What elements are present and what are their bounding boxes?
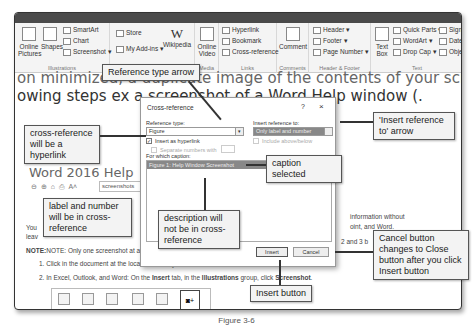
- page-number-button[interactable]: Page Number ▾: [313, 48, 369, 56]
- arrow-description: [204, 178, 206, 210]
- include-above-below-checkbox[interactable]: [253, 138, 259, 144]
- help-title: Word 2016 Help: [29, 165, 133, 180]
- quick-parts-button[interactable]: Quick Parts ▾: [393, 26, 442, 34]
- comment-icon: [286, 27, 300, 41]
- help-body-end-2: oint, and Word.: [350, 223, 394, 230]
- group-text: Text Box Quick Parts ▾ WordArt ▾ Drop Ca…: [371, 23, 462, 73]
- video-icon: [200, 27, 214, 41]
- insert-as-hyperlink-checkbox[interactable]: ✓: [146, 138, 152, 144]
- group-comments: Comment Comments: [277, 23, 309, 73]
- cross-reference-icon: [222, 49, 230, 56]
- illustrations-tray-image: ◙+ Shapes SmartArt Chart: [51, 288, 211, 310]
- callout-hyperlink: cross-reference will be a hyperlink: [24, 125, 100, 164]
- home-icon[interactable]: ⌂: [51, 183, 55, 190]
- insert-reference-to-label: Insert reference to:: [253, 120, 299, 126]
- my-addins-button[interactable]: My Add-ins ▾: [116, 45, 164, 53]
- separator-input[interactable]: [221, 145, 235, 153]
- callout-insert-button: Insert button: [250, 285, 312, 302]
- chart-icon: [63, 38, 71, 45]
- store-button[interactable]: Store: [116, 29, 142, 37]
- signature-icon: [439, 27, 447, 34]
- callout-caption-selected: caption selected: [266, 155, 342, 183]
- insert-button[interactable]: Insert: [256, 247, 288, 257]
- page-number-icon: [313, 49, 321, 56]
- hyperlink-icon: [222, 27, 230, 34]
- include-above-below-label: Include above/below: [262, 138, 312, 144]
- text-box-button[interactable]: Text Box: [373, 27, 391, 57]
- online-pictures-button[interactable]: Online Pictures: [18, 27, 40, 57]
- callout-label-number: label and number will be in cross-refere…: [43, 198, 132, 237]
- smartart-icon: [63, 27, 71, 34]
- online-pictures-icon: [82, 293, 94, 305]
- arrow-insert-reference-to: [340, 121, 373, 123]
- online-pictures-icon: [22, 27, 36, 41]
- wikipedia-button[interactable]: WWikipedia: [162, 27, 192, 48]
- group-links: Hyperlink Bookmark Cross-reference Links: [219, 23, 277, 73]
- document-line-1: on minimized, a duplicate image of the c…: [17, 69, 462, 87]
- help-body-end-1: information without: [350, 213, 405, 220]
- drop-cap-icon: [393, 49, 401, 56]
- arrow-caption-selected: [246, 164, 266, 166]
- store-icon: [116, 30, 124, 37]
- arrow-insert-button: [279, 260, 281, 285]
- close-button[interactable]: ×: [319, 102, 324, 111]
- help-note-end: 2 and 3 b: [341, 238, 368, 245]
- forward-icon[interactable]: ⊕: [41, 183, 47, 190]
- back-icon[interactable]: ⊖: [31, 183, 37, 190]
- font-size-icon[interactable]: A˄: [68, 183, 77, 190]
- chart-icon: [156, 293, 168, 305]
- help-body-start-2: leav: [26, 233, 38, 240]
- date-icon: [439, 38, 447, 45]
- insert-reference-to-select[interactable]: Only label and number▾: [253, 127, 333, 136]
- chevron-down-icon[interactable]: ▾: [235, 128, 243, 135]
- quick-parts-icon: [393, 27, 401, 34]
- chevron-down-icon[interactable]: ▾: [324, 128, 332, 135]
- chart-button[interactable]: Chart: [63, 37, 89, 45]
- help-nav-bar: ⊖ ⊕ ⌂ ⎙ A˄: [31, 183, 77, 191]
- object-button[interactable]: Object: [439, 48, 462, 56]
- group-illustrations: Online Pictures Shapes SmartArt Chart Sc…: [15, 23, 110, 73]
- help-button[interactable]: ?: [301, 103, 305, 110]
- drop-cap-button[interactable]: Drop Cap ▾: [393, 48, 437, 56]
- cancel-button[interactable]: Cancel: [293, 247, 329, 257]
- callout-reference-type-arrow: Reference type arrow: [102, 64, 200, 81]
- screenshot-button[interactable]: Screenshot ▾: [63, 48, 112, 56]
- comment-button[interactable]: Comment: [279, 27, 307, 50]
- object-icon: [439, 49, 447, 56]
- header-icon: [313, 27, 321, 34]
- reference-type-select[interactable]: Figure▾: [146, 127, 244, 136]
- callout-description: description will not be in cross-referen…: [158, 210, 240, 249]
- shapes-icon: [106, 293, 118, 305]
- footer-icon: [313, 38, 321, 45]
- group-header-footer: Header ▾ Footer ▾ Page Number ▾ Header &…: [309, 23, 371, 73]
- arrow-cancel-close: [335, 251, 373, 253]
- ribbon-tab-bar: Layout References Tell me what you want …: [15, 13, 461, 23]
- insert-as-hyperlink-label: Insert as hyperlink: [155, 138, 200, 144]
- footer-button[interactable]: Footer ▾: [313, 37, 348, 45]
- wikipedia-icon: W: [162, 27, 192, 41]
- shapes-icon: [43, 27, 57, 41]
- arrow-hyperlink: [100, 135, 146, 137]
- for-which-caption-label: For which caption:: [146, 153, 191, 159]
- wordart-button[interactable]: WordArt ▾: [393, 37, 433, 45]
- signature-line-button[interactable]: Signature Line: [439, 26, 462, 34]
- help-step-2: 2. In Excel, Outlook, and Word: On the I…: [39, 274, 312, 281]
- text-box-icon: [375, 27, 389, 41]
- figure-caption: Figure 3-6: [0, 316, 473, 325]
- callout-cancel-close: Cancel button changes to Close button af…: [373, 230, 469, 280]
- bookmark-icon: [222, 38, 230, 45]
- print-icon[interactable]: ⎙: [59, 183, 65, 190]
- callout-insert-reference-to-arrow: 'Insert reference to' arrow: [373, 112, 455, 140]
- wordart-icon: [393, 38, 401, 45]
- reference-type-label: Reference type:: [146, 120, 185, 126]
- addins-icon: [116, 46, 124, 53]
- date-time-button[interactable]: Date & Time: [439, 37, 462, 45]
- help-search-input[interactable]: screenshots: [99, 181, 143, 192]
- smartart-button[interactable]: SmartArt: [63, 26, 99, 34]
- cross-reference-button[interactable]: Cross-reference: [222, 48, 279, 56]
- online-video-button[interactable]: Online Video: [196, 27, 218, 57]
- shapes-button[interactable]: Shapes: [41, 27, 59, 50]
- bookmark-button[interactable]: Bookmark: [222, 37, 261, 45]
- hyperlink-button[interactable]: Hyperlink: [222, 26, 259, 34]
- header-button[interactable]: Header ▾: [313, 26, 350, 34]
